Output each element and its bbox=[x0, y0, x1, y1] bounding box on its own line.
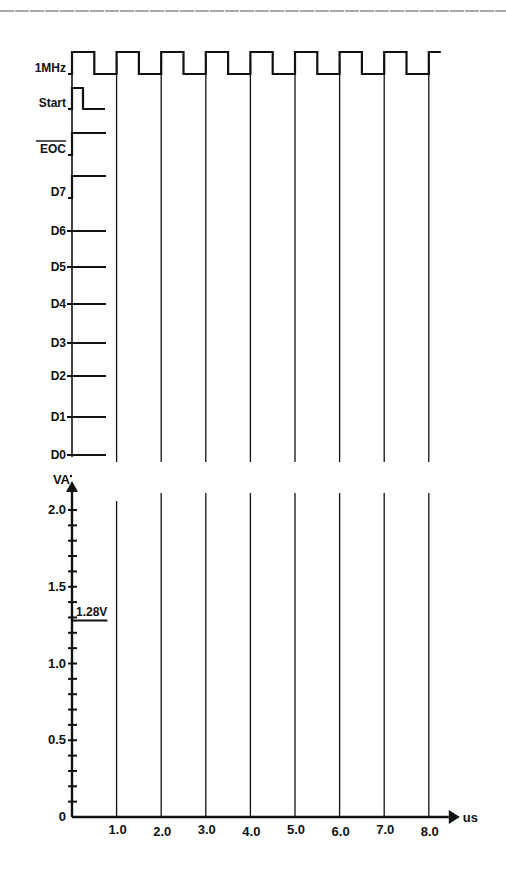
y-tick-label: 1.0 bbox=[48, 656, 66, 671]
signal-label: D5 bbox=[51, 260, 67, 274]
x-axis-label: us bbox=[463, 810, 478, 825]
timing-diagram: 1MHzStartEOCD7D6D5D4D3D2D1D0 VA00.51.01.… bbox=[0, 0, 506, 872]
signal-waveform bbox=[68, 88, 105, 109]
signal-label: D4 bbox=[51, 297, 67, 311]
signal-label: D6 bbox=[51, 224, 67, 238]
y-tick-label: 1.5 bbox=[48, 579, 66, 594]
signal-waveform bbox=[68, 133, 106, 155]
y-tick-label: 0 bbox=[59, 809, 66, 824]
signal-d4: D4 bbox=[51, 297, 106, 311]
signal-label: D0 bbox=[51, 448, 67, 462]
x-tick-label: 7.0 bbox=[376, 822, 394, 837]
signal-d5: D5 bbox=[51, 260, 106, 274]
signal-label: D1 bbox=[51, 410, 67, 424]
signal-d3: D3 bbox=[51, 336, 106, 350]
x-tick-label: 8.0 bbox=[421, 824, 439, 839]
y-tick-label: 2.0 bbox=[48, 502, 66, 517]
signal-d6: D6 bbox=[51, 224, 106, 238]
signal-d1: D1 bbox=[51, 410, 106, 424]
x-tick-label: 1.0 bbox=[109, 822, 127, 837]
signal-start: Start bbox=[39, 88, 105, 110]
time-gridlines bbox=[117, 60, 429, 817]
x-tick-label: 5.0 bbox=[287, 822, 305, 837]
signal-label: Start bbox=[39, 96, 66, 110]
voltage-annotation: 1.28V bbox=[76, 605, 107, 619]
signal-label: EOC bbox=[40, 142, 66, 156]
signal-label: D2 bbox=[51, 369, 67, 383]
signal-eoc: EOC bbox=[36, 133, 106, 156]
x-tick-label: 3.0 bbox=[198, 822, 216, 837]
y-tick-label: 0.5 bbox=[48, 732, 66, 747]
y-axis-label: VA bbox=[53, 472, 71, 487]
analog-voltage-panel: VA00.51.01.52.0us1.02.03.04.05.06.07.08.… bbox=[48, 472, 478, 839]
x-axis-arrow-icon bbox=[449, 810, 460, 824]
signal-label: D7 bbox=[51, 185, 67, 199]
x-tick-label: 6.0 bbox=[332, 824, 350, 839]
signal-label: 1MHz bbox=[35, 61, 66, 75]
signal-label: D3 bbox=[51, 336, 67, 350]
signal-waveform bbox=[68, 52, 441, 74]
signal-d2: D2 bbox=[51, 369, 106, 383]
signal-waveform bbox=[68, 176, 106, 198]
signal-1mhz: 1MHz bbox=[35, 52, 441, 75]
signal-d0: D0 bbox=[51, 448, 106, 462]
signal-d7: D7 bbox=[51, 176, 106, 199]
digital-timing-panel: 1MHzStartEOCD7D6D5D4D3D2D1D0 bbox=[35, 52, 441, 462]
x-tick-label: 2.0 bbox=[153, 824, 171, 839]
x-tick-label: 4.0 bbox=[242, 824, 260, 839]
